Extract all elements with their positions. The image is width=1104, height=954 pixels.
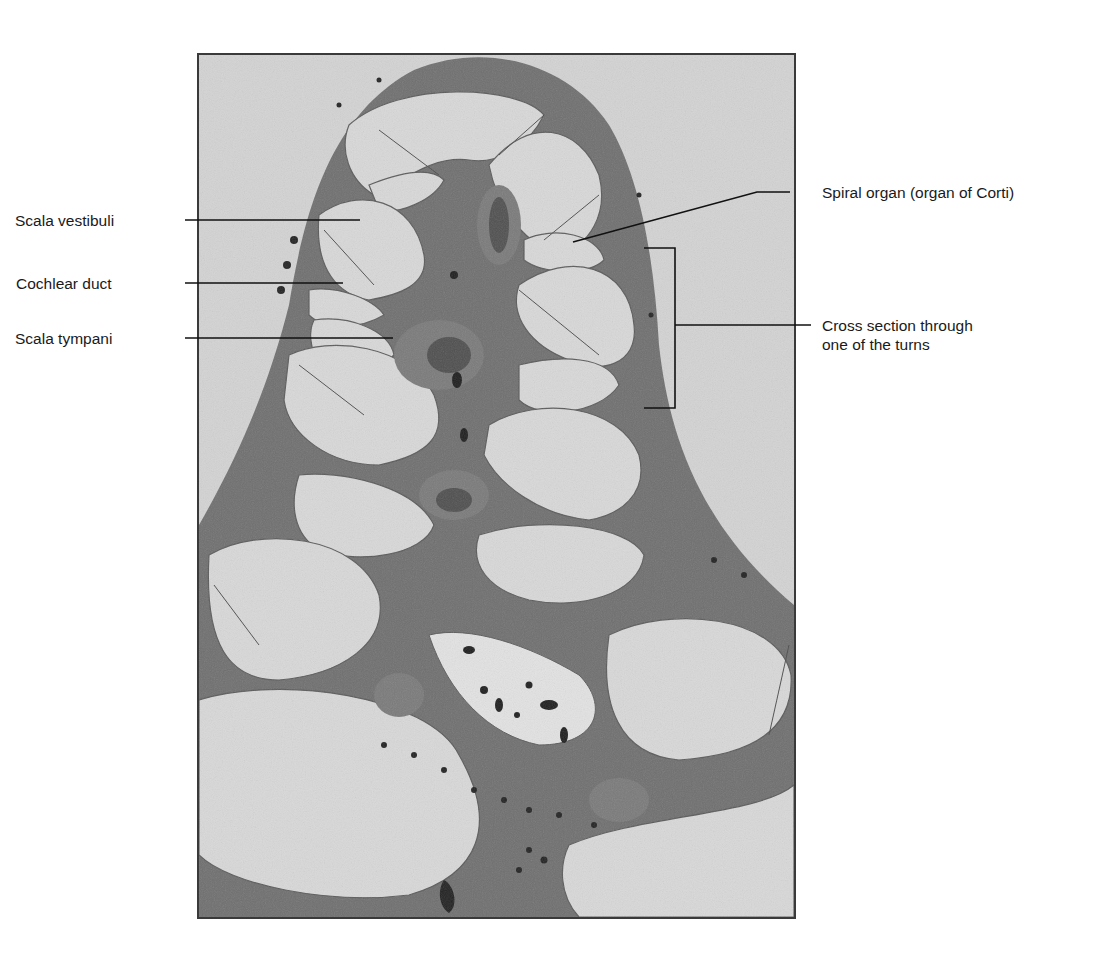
label-scala-tympani: Scala tympani	[15, 329, 112, 348]
label-cross-section-line-2: one of the turns	[822, 335, 973, 354]
label-cochlear-duct: Cochlear duct	[16, 274, 112, 293]
label-spiral-organ: Spiral organ (organ of Corti)	[822, 183, 1014, 202]
label-cross-section-line-1: Cross section through	[822, 316, 973, 335]
label-cross-section: Cross section through one of the turns	[822, 316, 973, 354]
micrograph-illustration	[199, 55, 794, 917]
label-scala-vestibuli: Scala vestibuli	[15, 211, 114, 230]
cochlea-micrograph	[197, 53, 796, 919]
labeled-figure: Scala vestibuli Cochlear duct Scala tymp…	[0, 0, 1104, 954]
